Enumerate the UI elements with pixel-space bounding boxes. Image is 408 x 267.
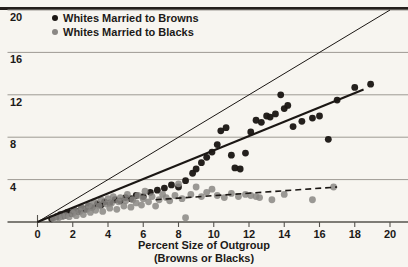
data-point — [193, 184, 200, 191]
data-point — [258, 119, 265, 126]
data-point — [161, 185, 168, 192]
y-tick-label-12: 12 — [10, 96, 22, 108]
data-point — [284, 102, 291, 109]
data-point — [325, 136, 332, 143]
data-point — [277, 91, 284, 98]
data-point — [198, 159, 205, 166]
y-tick-label-4: 4 — [10, 181, 16, 193]
data-point — [256, 194, 263, 201]
x-axis-subtitle: (Browns or Blacks) — [0, 252, 408, 265]
data-point — [108, 200, 115, 207]
chart-legend: Whites Married to BrownsWhites Married t… — [52, 11, 199, 39]
data-point — [228, 190, 235, 197]
plot-area — [0, 0, 408, 267]
data-point — [272, 110, 279, 117]
data-point — [175, 180, 182, 187]
data-point — [228, 152, 235, 159]
data-point — [242, 150, 249, 157]
data-point — [237, 166, 244, 173]
data-point — [149, 193, 156, 200]
data-point — [124, 191, 131, 198]
data-point — [367, 81, 374, 88]
data-point — [110, 193, 117, 200]
data-point — [182, 214, 189, 221]
x-axis-title-block: Percent Size of Outgroup (Browns or Blac… — [0, 239, 408, 265]
data-point — [351, 84, 358, 91]
data-point — [152, 203, 159, 210]
data-point — [269, 196, 276, 203]
legend-marker-icon — [52, 29, 58, 35]
y-tick-label-16: 16 — [10, 53, 22, 65]
data-point — [113, 206, 120, 213]
data-point — [209, 186, 216, 193]
data-point — [316, 113, 323, 120]
data-point — [128, 204, 135, 211]
data-point — [309, 115, 316, 122]
data-point — [142, 188, 149, 195]
x-axis-title: Percent Size of Outgroup — [0, 239, 408, 252]
data-point — [154, 187, 161, 194]
data-point — [182, 177, 189, 184]
data-point — [223, 124, 230, 131]
legend-item-0: Whites Married to Browns — [52, 11, 199, 24]
legend-item-1: Whites Married to Blacks — [52, 25, 199, 38]
scatter-chart: 20161284 02468101214161820 Whites Marrie… — [0, 0, 408, 267]
legend-label: Whites Married to Browns — [63, 12, 199, 24]
data-point — [309, 196, 316, 203]
data-point — [138, 202, 145, 209]
data-point — [168, 182, 175, 189]
legend-marker-icon — [52, 15, 58, 21]
data-point — [122, 197, 129, 204]
legend-label: Whites Married to Blacks — [63, 26, 194, 38]
data-point — [193, 166, 200, 173]
data-point — [99, 208, 106, 215]
data-point — [290, 123, 297, 130]
y-tick-label-20: 20 — [10, 11, 22, 23]
y-tick-label-8: 8 — [10, 138, 16, 150]
data-point — [281, 191, 288, 198]
data-point — [298, 118, 305, 125]
